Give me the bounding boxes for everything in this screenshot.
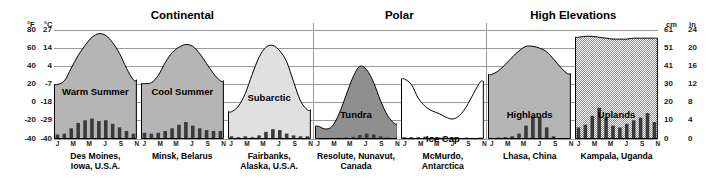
precipitation-bar [69, 128, 73, 139]
climate-graph-figure: °F °C cm in Continental Polar High Eleva… [0, 0, 722, 182]
precipitation-bar [163, 130, 167, 138]
precipitation-bar [604, 117, 608, 138]
precipitation-bar [111, 123, 115, 138]
precipitation-bar [531, 116, 535, 138]
precipitation-bar [524, 125, 528, 138]
temperature-area [488, 45, 571, 138]
climate-type-label: Subarctic [228, 93, 311, 103]
left-axis-tick-celsius: -29 [34, 116, 52, 124]
precipitation-bar [611, 125, 615, 138]
precipitation-bar [545, 127, 549, 139]
precipitation-bar [538, 116, 542, 138]
precipitation-bar [653, 122, 657, 139]
precipitation-bar [191, 125, 195, 138]
precipitation-bar [170, 128, 174, 139]
left-axis-tick-fahrenheit: 80 [16, 26, 36, 34]
left-axis-tick-fahrenheit: 0 [16, 98, 36, 106]
precipitation-bar [205, 130, 209, 139]
right-axis-tick-inches: 4 [688, 116, 706, 124]
left-axis-tick-fahrenheit: -20 [16, 116, 36, 124]
climate-type-label: Warm Summer [54, 87, 137, 97]
left-axis-tick-celsius: 14 [34, 44, 52, 52]
precipitation-bar [632, 120, 636, 139]
group-separator [486, 23, 487, 139]
climate-panel[interactable] [401, 30, 484, 139]
right-axis-tick-centimeters: 0 [664, 135, 682, 143]
precipitation-bar [76, 122, 80, 138]
precipitation-bar [198, 128, 202, 139]
month-ticks: JMMJSN [575, 140, 658, 149]
left-axis-tick-fahrenheit: -40 [16, 135, 36, 143]
climate-panel[interactable] [315, 30, 398, 139]
precipitation-bar [97, 121, 101, 139]
climate-panel[interactable] [141, 30, 224, 139]
precipitation-bar [618, 127, 622, 139]
right-axis-tick-centimeters: 61 [664, 26, 682, 34]
climate-panel[interactable] [228, 30, 311, 139]
right-axis-tick-centimeters: 41 [664, 62, 682, 70]
precipitation-bar [184, 122, 188, 139]
precipitation-bar [104, 120, 108, 139]
climate-panel[interactable] [54, 30, 137, 139]
left-axis-tick-celsius: 4 [34, 62, 52, 70]
precipitation-bar [584, 124, 588, 138]
precipitation-bar [118, 127, 122, 139]
climate-type-label: Ice Cap [401, 134, 484, 144]
right-axis-tick-inches: 8 [688, 98, 706, 106]
city-caption: Kampala, Uganda [561, 151, 672, 161]
precipitation-bar [278, 130, 282, 139]
group-separator [313, 23, 314, 139]
plot-area [54, 30, 658, 139]
left-axis-tick-celsius: -40 [34, 135, 52, 143]
precipitation-bar [218, 130, 222, 138]
right-axis-tick-inches: 12 [688, 80, 706, 88]
left-axis-tick-fahrenheit: 40 [16, 62, 36, 70]
right-axis-tick-centimeters: 10 [664, 116, 682, 124]
month-ticks: JMMJSN [228, 140, 311, 149]
left-axis-tick-fahrenheit: 60 [16, 44, 36, 52]
group-header-high-elevations: High Elevations [530, 9, 616, 21]
climate-panel[interactable] [488, 30, 571, 139]
climate-type-label: Highlands [488, 110, 571, 120]
precipitation-bar [264, 131, 268, 138]
climate-type-label: Uplands [575, 110, 658, 120]
precipitation-bar [212, 130, 216, 138]
precipitation-bar [577, 127, 581, 139]
right-axis-tick-inches: 24 [688, 26, 706, 34]
left-axis-tick-fahrenheit: 20 [16, 80, 36, 88]
climate-type-label: Tundra [315, 110, 398, 120]
climate-type-label: Cool Summer [141, 87, 224, 97]
group-header-polar: Polar [385, 9, 414, 21]
month-ticks: JMMJSN [54, 140, 137, 149]
month-ticks: JMMJSN [141, 140, 224, 149]
right-axis-tick-centimeters: 51 [664, 44, 682, 52]
precipitation-bar [90, 118, 94, 139]
temperature-area [315, 65, 398, 138]
left-axis-tick-celsius: -18 [34, 98, 52, 106]
left-axis-tick-celsius: -7 [34, 80, 52, 88]
month-ticks: JMMJSN [315, 140, 398, 149]
temperature-area [575, 36, 658, 139]
precipitation-bar [83, 120, 87, 139]
right-axis-tick-centimeters: 30 [664, 80, 682, 88]
right-axis-tick-centimeters: 20 [664, 98, 682, 106]
group-header-continental: Continental [151, 9, 214, 21]
left-axis-tick-celsius: 27 [34, 26, 52, 34]
precipitation-bar [639, 117, 643, 138]
precipitation-bar [177, 124, 181, 138]
right-axis-tick-inches: 16 [688, 62, 706, 70]
right-axis-tick-inches: 20 [688, 44, 706, 52]
precipitation-bar [625, 123, 629, 138]
right-axis-tick-inches: 0 [688, 135, 706, 143]
precipitation-bar [125, 130, 129, 138]
precipitation-bar [271, 129, 275, 139]
month-ticks: JMMJSN [488, 140, 571, 149]
climate-panel[interactable] [575, 30, 658, 139]
